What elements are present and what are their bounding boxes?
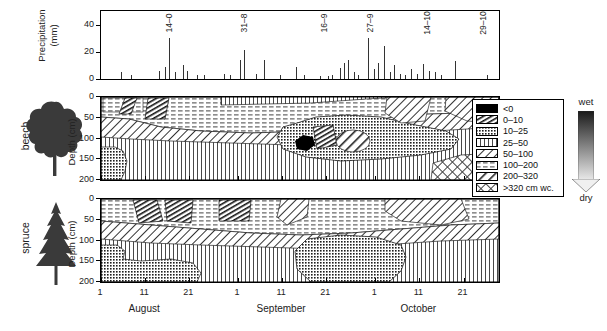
precipitation-bar bbox=[121, 72, 122, 79]
beech-y-tick-label: 200 bbox=[79, 175, 94, 184]
legend-item[interactable]: 25–50 bbox=[476, 137, 560, 148]
legend-label: 50–100 bbox=[503, 149, 533, 159]
legend-item[interactable]: <0 bbox=[476, 103, 560, 114]
legend-box[interactable]: <00–1010–2525–5050–100100–200200–320>320… bbox=[472, 99, 564, 197]
legend-item[interactable]: 50–100 bbox=[476, 148, 560, 159]
legend-swatch-wide-diagonal bbox=[476, 172, 498, 181]
precipitation-plot[interactable] bbox=[100, 10, 500, 80]
precipitation-bar bbox=[340, 68, 341, 79]
precipitation-bar bbox=[423, 64, 424, 79]
x-tick-mark bbox=[189, 278, 190, 282]
precipitation-bar bbox=[435, 72, 436, 79]
legend-label: 0–10 bbox=[503, 115, 523, 125]
spruce-x-ticks bbox=[101, 277, 499, 282]
precipitation-bar bbox=[197, 75, 198, 79]
x-axis-day-labels: 111211112111121 bbox=[100, 288, 500, 302]
precipitation-bar bbox=[240, 60, 241, 79]
precipitation-bar bbox=[230, 75, 231, 79]
wet-label: wet bbox=[566, 96, 606, 107]
x-axis-day-label: 1 bbox=[364, 288, 384, 297]
spruce-y-tick-label: 150 bbox=[79, 256, 94, 265]
legend-swatch-horizontal-dashes bbox=[476, 161, 498, 170]
precipitation-bar bbox=[169, 38, 170, 79]
x-tick-mark bbox=[238, 278, 239, 282]
x-tick-mark bbox=[419, 278, 420, 282]
precipitation-bar bbox=[183, 65, 184, 79]
precipitation-bar bbox=[354, 72, 355, 79]
legend-item[interactable]: 100–200 bbox=[476, 159, 560, 170]
precipitation-bar bbox=[390, 72, 391, 79]
arrow-head-icon bbox=[572, 179, 600, 192]
legend-swatch-diagonal-lines bbox=[476, 149, 498, 158]
precipitation-bar bbox=[400, 74, 401, 79]
spruce-y-tick-label: 200 bbox=[79, 277, 94, 286]
legend-swatch-crosshatch bbox=[476, 183, 498, 192]
precipitation-bar bbox=[358, 75, 359, 79]
precipitation-bar bbox=[487, 75, 488, 79]
beech-y-tick-label: 50 bbox=[84, 113, 94, 122]
precipitation-bar bbox=[280, 75, 281, 79]
dry-label: dry bbox=[566, 192, 606, 203]
precipitation-bar bbox=[384, 46, 385, 79]
spruce-soil-moisture-plot[interactable] bbox=[100, 198, 500, 283]
x-tick-mark bbox=[101, 176, 102, 180]
x-axis-day-label: 11 bbox=[134, 288, 154, 297]
x-axis-month-label: August bbox=[104, 303, 184, 314]
x-tick-mark bbox=[145, 176, 146, 180]
legend-item[interactable]: 10–25 bbox=[476, 126, 560, 137]
spruce-y-tick-label: 50 bbox=[84, 215, 94, 224]
x-axis-day-label: 11 bbox=[271, 288, 291, 297]
legend-label: >320 cm wc. bbox=[503, 183, 554, 193]
legend-swatch-dotted-grid bbox=[476, 127, 498, 136]
x-axis-month-labels: AugustSeptemberOctober bbox=[100, 303, 500, 319]
x-axis-day-label: 1 bbox=[227, 288, 247, 297]
precipitation-bar bbox=[296, 67, 297, 79]
legend-label: 10–25 bbox=[503, 126, 528, 136]
beech-soil-moisture-plot[interactable] bbox=[100, 96, 500, 181]
x-tick-mark bbox=[145, 278, 146, 282]
x-axis-month-label: September bbox=[241, 303, 321, 314]
legend-swatch-vertical-lines bbox=[476, 138, 498, 147]
legend-swatch-solid-black bbox=[476, 104, 498, 113]
precipitation-bar bbox=[320, 76, 321, 79]
precipitation-bar bbox=[417, 74, 418, 79]
spruce-y-ticks: 050100150200 bbox=[70, 198, 100, 283]
precipitation-bar bbox=[304, 75, 305, 79]
moisture-scale: wet dry bbox=[566, 96, 606, 204]
precipitation-bar bbox=[165, 67, 166, 79]
legend-item[interactable]: >320 cm wc. bbox=[476, 182, 560, 193]
x-axis-day-label: 1 bbox=[90, 288, 110, 297]
legend-item[interactable]: 0–10 bbox=[476, 114, 560, 125]
x-tick-mark bbox=[326, 278, 327, 282]
legend-label: 100–200 bbox=[503, 160, 538, 170]
gradient-bar-icon bbox=[578, 111, 594, 181]
beech-profile-svg bbox=[101, 97, 499, 180]
x-tick-mark bbox=[238, 176, 239, 180]
precipitation-bar bbox=[332, 75, 333, 79]
x-tick-mark bbox=[464, 278, 465, 282]
x-tick-mark bbox=[419, 176, 420, 180]
precipitation-bar bbox=[159, 71, 160, 79]
precipitation-bar bbox=[405, 75, 406, 79]
spruce-y-tick-label: 100 bbox=[79, 236, 94, 245]
precipitation-bars bbox=[101, 11, 499, 79]
precipitation-bar bbox=[175, 72, 176, 79]
precipitation-bar bbox=[244, 50, 245, 79]
legend-item[interactable]: 200–320 bbox=[476, 171, 560, 182]
precipitation-y-axis-unit: (mm) bbox=[48, 0, 59, 81]
precipitation-bar bbox=[348, 60, 349, 79]
legend-label: 25–50 bbox=[503, 138, 528, 148]
legend-swatch-steep-diagonal bbox=[476, 115, 498, 124]
beech-y-tick-label: 150 bbox=[79, 154, 94, 163]
precipitation-bar bbox=[131, 75, 132, 79]
beech-y-ticks: 050100150200 bbox=[70, 96, 100, 181]
precipitation-bar bbox=[264, 60, 265, 79]
precipitation-bar bbox=[378, 63, 379, 79]
precipitation-bar bbox=[374, 69, 375, 79]
spruce-profile-svg bbox=[101, 199, 499, 282]
x-axis-day-label: 11 bbox=[408, 288, 428, 297]
x-tick-mark bbox=[282, 278, 283, 282]
precipitation-bar bbox=[455, 61, 456, 79]
precipitation-bar bbox=[394, 65, 395, 79]
precipitation-y-ticks: 02040 bbox=[70, 10, 100, 80]
